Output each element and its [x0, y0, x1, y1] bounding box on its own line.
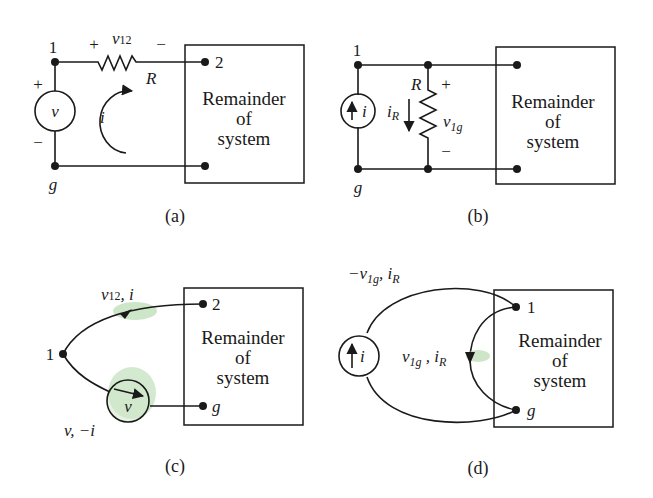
junction-dot: [424, 61, 432, 69]
box-label-line1: Remainder: [518, 330, 602, 351]
node-1-label: 1: [527, 298, 536, 317]
node-1-label: 1: [353, 41, 362, 60]
box-label-line1: Remainder: [202, 88, 286, 109]
resistor-label: R: [410, 75, 422, 94]
edge-bottom: [63, 354, 110, 392]
resistor-plus: +: [441, 75, 451, 94]
caption-c: (c): [165, 456, 185, 477]
box-label-line3: system: [534, 370, 587, 391]
edge-inner-label: v1g , iR: [402, 347, 447, 369]
highlight-mark: [113, 302, 157, 320]
node-1-label: 1: [46, 345, 55, 364]
caption-b: (b): [468, 206, 489, 227]
panel-b: Remainder of system i 1 g R + − iR v1g (…: [341, 41, 615, 227]
source-symbol: i: [362, 102, 367, 121]
terminal-dot: [513, 165, 521, 173]
node-1-label: 1: [49, 38, 58, 57]
node-g-dot: [51, 162, 59, 170]
caption-a: (a): [165, 206, 185, 227]
box-label-line2: of: [552, 350, 569, 371]
edge-bottom-label: v, −i: [64, 421, 95, 440]
junction-dot: [424, 165, 432, 173]
node-2-label: 2: [215, 53, 224, 72]
node-1-dot: [512, 303, 520, 311]
terminal-dot: [513, 61, 521, 69]
box-label-line2: of: [236, 108, 253, 129]
box-label-line2: of: [545, 111, 562, 132]
source-symbol: v: [51, 102, 59, 121]
panel-a: Remainder of system v 1 2 g + − + − v12 …: [33, 29, 304, 227]
resistor-minus: −: [156, 35, 166, 54]
node-g-label: g: [354, 178, 363, 197]
node-1-dot: [354, 61, 362, 69]
node-2-label: 2: [212, 295, 221, 314]
source-symbol: i: [360, 347, 365, 366]
box-label-line3: system: [218, 128, 271, 149]
circuit-figure: Remainder of system v 1 2 g + − + − v12 …: [0, 0, 653, 498]
edge-outer-label: −v1g, iR: [348, 264, 400, 286]
resistor-minus: −: [441, 142, 451, 161]
source-minus: −: [33, 133, 43, 152]
node-2-dot: [201, 58, 209, 66]
current-source-b: [341, 94, 375, 128]
loop-current-label: i: [100, 108, 105, 127]
current-source-d: [339, 336, 379, 376]
node-g-label: g: [49, 175, 58, 194]
resistor-current-label: iR: [387, 102, 400, 123]
panel-d: Remainder of system i 1 g −v1g, iR v1g ,…: [339, 264, 613, 479]
box-label-line3: system: [527, 131, 580, 152]
panel-c: Remainder of system v 1 2 g v12, i v, −i…: [46, 285, 303, 477]
resistor-label: R: [145, 69, 157, 88]
source-symbol: v: [124, 397, 132, 416]
resistor-plus: +: [89, 35, 99, 54]
node-1-dot: [59, 350, 67, 358]
resistor-voltage-label: v1g: [443, 112, 463, 134]
node-g-dot: [512, 406, 520, 414]
box-label-line2: of: [235, 347, 252, 368]
box-label-line3: system: [217, 367, 270, 388]
terminal-dot: [201, 162, 209, 170]
node-g-dot: [354, 165, 362, 173]
node-g-dot: [199, 402, 207, 410]
resistor-voltage-label: v12: [112, 29, 132, 48]
caption-d: (d): [468, 458, 489, 479]
box-label-line1: Remainder: [511, 91, 595, 112]
node-2-dot: [199, 300, 207, 308]
edge-top-label: v12, i: [101, 285, 134, 304]
box-label-line1: Remainder: [201, 327, 285, 348]
node-1-dot: [51, 58, 59, 66]
node-g-label: g: [212, 397, 221, 416]
node-g-label: g: [527, 401, 536, 420]
source-plus: +: [33, 75, 43, 94]
